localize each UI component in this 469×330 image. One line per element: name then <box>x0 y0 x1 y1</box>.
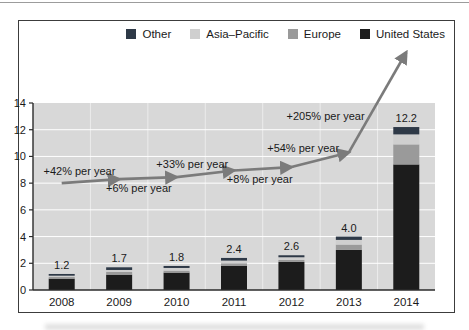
x-axis-label-2012: 2012 <box>279 296 305 308</box>
bar-2011-united-states <box>221 266 247 290</box>
x-axis-label-2009: 2009 <box>106 296 132 308</box>
legend-item-asia-pacific: Asia–Pacific <box>190 28 269 40</box>
legend-label: United States <box>376 28 445 40</box>
bar-2014-europe <box>393 144 419 164</box>
legend-item-united-states: United States <box>360 28 445 40</box>
bar-2010-europe <box>164 271 190 273</box>
bar-2012-europe <box>278 260 304 262</box>
cropped-caption-artifact <box>45 324 424 330</box>
bar-2009-europe <box>106 272 132 275</box>
x-axis-label-2011: 2011 <box>222 296 247 308</box>
growth-annotation: +42% per year <box>43 165 115 177</box>
legend-label: Europe <box>304 28 341 40</box>
y-tick-label: 8 <box>20 177 26 189</box>
bar-2010-united-states <box>164 273 190 290</box>
bar-2013-other <box>336 237 362 240</box>
legend-label: Asia–Pacific <box>206 28 269 40</box>
bar-2011-other <box>221 258 247 261</box>
y-tick-label: 0 <box>20 284 26 296</box>
legend-item-other: Other <box>126 28 171 40</box>
legend-label: Other <box>142 28 171 40</box>
legend-swatch-asia-pacific <box>190 29 200 39</box>
bar-value-label: 1.7 <box>111 252 126 264</box>
y-tick-label: 2 <box>20 257 26 269</box>
bar-2012-asia-pacific <box>278 257 304 260</box>
bar-2012-united-states <box>278 262 304 290</box>
bar-2012-other <box>278 255 304 257</box>
bar-value-label: 1.2 <box>54 259 69 271</box>
bar-2011-europe <box>221 263 247 266</box>
y-tick-label: 10 <box>14 150 26 162</box>
bar-value-label: 2.6 <box>284 240 299 252</box>
bar-2014-united-states <box>393 164 419 290</box>
x-axis-label-2010: 2010 <box>164 296 190 308</box>
bar-2008-europe <box>49 277 75 279</box>
bar-2013-europe <box>336 245 362 250</box>
legend-swatch-united-states <box>360 29 370 39</box>
legend-swatch-europe <box>288 29 298 39</box>
x-axis-label-2008: 2008 <box>49 296 75 308</box>
y-tick-label: 12 <box>14 124 26 136</box>
bar-value-label: 2.4 <box>226 243 241 255</box>
bar-2011-asia-pacific <box>221 261 247 264</box>
bar-2013-asia-pacific <box>336 240 362 245</box>
y-tick-label: 14 <box>14 97 26 109</box>
bar-2014-other <box>393 127 419 134</box>
legend-swatch-other <box>126 29 136 39</box>
bar-2010-other <box>164 266 190 268</box>
bar-2008-other <box>49 274 75 276</box>
chart-canvas: 0246810121420082009201020112012201320141… <box>0 0 469 330</box>
growth-annotation: +205% per year <box>287 110 365 122</box>
bar-2009-other <box>106 267 132 270</box>
y-tick-label: 6 <box>20 204 26 216</box>
chart-legend: OtherAsia–PacificEuropeUnited States <box>126 28 445 40</box>
x-axis-label-2013: 2013 <box>336 296 362 308</box>
growth-annotation: +33% per year <box>156 158 228 170</box>
bar-2014-asia-pacific <box>393 134 419 144</box>
bar-value-label: 1.8 <box>169 251 184 263</box>
bar-value-label: 4.0 <box>341 222 356 234</box>
bar-2009-asia-pacific <box>106 270 132 272</box>
growth-annotation: +54% per year <box>267 142 339 154</box>
legend-item-europe: Europe <box>288 28 341 40</box>
x-axis-label-2014: 2014 <box>393 296 419 308</box>
bar-2009-united-states <box>106 275 132 290</box>
bar-2008-asia-pacific <box>49 276 75 277</box>
bar-2013-united-states <box>336 250 362 290</box>
bar-2010-asia-pacific <box>164 268 190 271</box>
y-tick-label: 4 <box>20 231 26 243</box>
bar-value-label: 12.2 <box>396 112 417 124</box>
bar-2008-united-states <box>49 279 75 290</box>
growth-annotation: +8% per year <box>227 173 293 185</box>
growth-annotation: +6% per year <box>106 182 172 194</box>
